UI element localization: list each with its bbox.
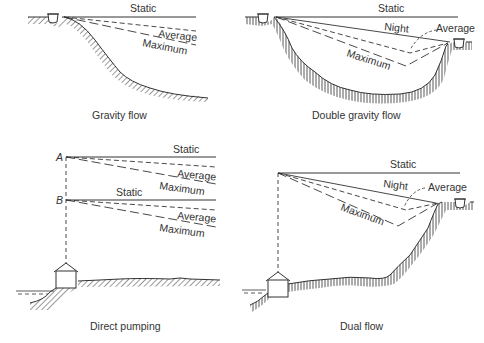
panel-dual-flow: Static Night Average Maximum Dual flow bbox=[242, 158, 474, 332]
caption-gravity-flow: Gravity flow bbox=[92, 109, 147, 121]
label-b-average: Average bbox=[177, 209, 217, 224]
panel-gravity-flow: Static Average Maximum Gravity flow bbox=[28, 2, 208, 121]
label-average: Average bbox=[436, 22, 475, 34]
average-line bbox=[278, 173, 438, 210]
average-line bbox=[276, 17, 448, 53]
label-static: Static bbox=[130, 2, 156, 14]
label-a-maximum: Maximum bbox=[159, 179, 206, 197]
label-night: Night bbox=[384, 20, 410, 35]
reservoir-icon bbox=[454, 199, 466, 208]
label-point-b: B bbox=[56, 194, 63, 206]
night-line bbox=[278, 173, 436, 203]
label-average: Average bbox=[428, 181, 467, 193]
label-a-average: Average bbox=[177, 167, 217, 182]
panel-double-gravity-flow: Static Night Average Maximum Double grav… bbox=[245, 2, 475, 121]
pump-house-icon bbox=[266, 272, 290, 297]
label-static: Static bbox=[390, 158, 416, 170]
reservoir-icon-right bbox=[453, 39, 465, 48]
panel-direct-pumping: A B Static Average Maximum Static Averag… bbox=[16, 143, 220, 332]
reservoir-icon bbox=[47, 14, 59, 23]
label-maximum: Maximum bbox=[345, 46, 392, 72]
label-maximum: Maximum bbox=[339, 201, 386, 228]
label-point-a: A bbox=[55, 151, 63, 163]
distribution-diagram: Static Average Maximum Gravity flow Stat… bbox=[0, 0, 484, 343]
label-a-static: Static bbox=[173, 143, 199, 155]
night-line bbox=[276, 17, 450, 42]
a-average-line bbox=[66, 157, 216, 167]
caption-dual-flow: Dual flow bbox=[340, 320, 384, 332]
b-average-line bbox=[66, 200, 216, 210]
label-night: Night bbox=[383, 177, 409, 192]
caption-direct-pumping: Direct pumping bbox=[90, 320, 161, 332]
caption-double-gravity-flow: Double gravity flow bbox=[312, 109, 401, 121]
label-static: Static bbox=[378, 2, 404, 14]
pump-house-icon bbox=[54, 263, 78, 288]
label-b-static: Static bbox=[116, 186, 142, 198]
reservoir-icon-left bbox=[257, 14, 269, 23]
